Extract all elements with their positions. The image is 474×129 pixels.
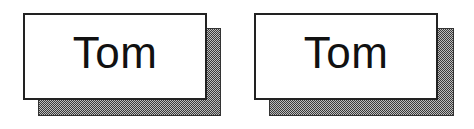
- card-1-box: Tom: [23, 13, 207, 100]
- card-2-box: Tom: [254, 13, 438, 100]
- card-2-label: Tom: [304, 31, 389, 75]
- card-1-label: Tom: [73, 31, 158, 75]
